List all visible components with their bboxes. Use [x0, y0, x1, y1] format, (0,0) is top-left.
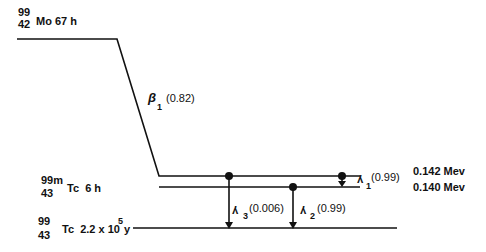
beta1-symbol: β [148, 92, 156, 103]
tc99-atomic: 43 [38, 230, 50, 240]
tc99m-atomic: 43 [41, 188, 53, 198]
energy-0142: 0.142 Mev [413, 166, 465, 177]
tc99-exp: 5 [118, 216, 123, 226]
gamma3-sub: 3 [243, 211, 248, 221]
gamma1-origin-dot [338, 172, 346, 180]
gamma3-origin-dot [225, 172, 233, 180]
gamma3-symbol: γ [232, 206, 238, 217]
gamma2-fraction: (0.99) [317, 203, 346, 214]
mo99-symbol: Mo 67 h [36, 16, 77, 27]
energy-0140: 0.140 Mev [413, 182, 465, 193]
decay-scheme-diagram: 99 42 Mo 67 h β 1 (0.82) 99m 43 Tc 6 h 9… [0, 0, 486, 252]
gamma3-fraction: (0.006) [249, 203, 284, 214]
tc99m-symbol: Tc 6 h [67, 183, 101, 194]
gamma2-sub: 2 [310, 211, 315, 221]
mo99-mass: 99 [18, 7, 30, 17]
mo99-atomic: 42 [18, 19, 30, 29]
beta1-fraction: (0.82) [166, 93, 195, 104]
beta1-sub: 1 [157, 102, 162, 112]
tc99-symbol: Tc 2.2 x 10 [62, 224, 120, 235]
tc99m-mass: 99m [41, 175, 63, 185]
gamma2-origin-dot [289, 183, 297, 191]
gamma2-symbol: γ [300, 206, 306, 217]
tc99-unit: y [124, 224, 130, 235]
gamma1-arrowhead [338, 181, 346, 187]
mo99-level-and-beta-line [17, 39, 360, 176]
tc99-mass: 99 [38, 216, 50, 226]
gamma1-symbol: γ [357, 175, 363, 186]
gamma1-fraction: (0.99) [371, 172, 400, 183]
